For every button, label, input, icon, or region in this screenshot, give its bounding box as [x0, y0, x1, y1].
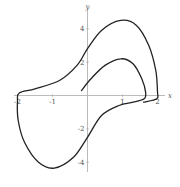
y-tick-label: -4 — [78, 159, 85, 167]
y-axis-label: y — [85, 3, 91, 11]
y-tick-label: 4 — [80, 25, 85, 33]
x-axis-label: x — [168, 92, 172, 100]
axes — [14, 10, 165, 172]
y-tick-label: -2 — [78, 125, 85, 133]
phase-portrait-chart: -2-112-4-224 x y — [0, 0, 180, 187]
x-tick-label: -1 — [49, 98, 56, 106]
tick-labels: -2-112-4-224 — [14, 25, 160, 167]
